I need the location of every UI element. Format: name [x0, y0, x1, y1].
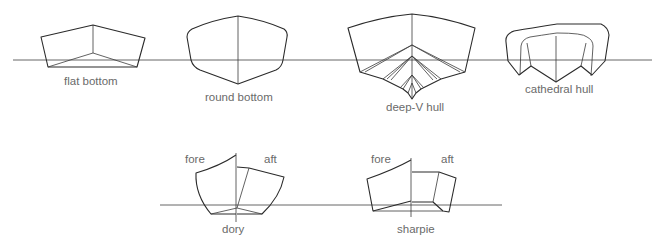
flat-bottom-hull: flat bottom [41, 25, 145, 87]
label-sharpie-fore: fore [371, 153, 391, 165]
hull-types-diagram: flat bottom round bottom deep-V hull cat… [0, 0, 661, 244]
dory-hull: fore aft dory [185, 153, 284, 235]
label-sharpie: sharpie [397, 223, 435, 235]
label-cathedral-hull: cathedral hull [525, 83, 593, 95]
label-round-bottom: round bottom [205, 91, 273, 103]
deep-v-hull: deep-V hull [348, 14, 475, 113]
label-dory: dory [222, 223, 245, 235]
label-sharpie-aft: aft [441, 153, 455, 165]
label-dory-aft: aft [264, 153, 278, 165]
label-flat-bottom: flat bottom [64, 75, 118, 87]
label-deep-v-hull: deep-V hull [386, 101, 444, 113]
label-dory-fore: fore [185, 153, 205, 165]
round-bottom-hull: round bottom [187, 16, 287, 103]
sharpie-hull: fore aft sharpie [367, 153, 456, 235]
cathedral-hull: cathedral hull [506, 24, 609, 95]
